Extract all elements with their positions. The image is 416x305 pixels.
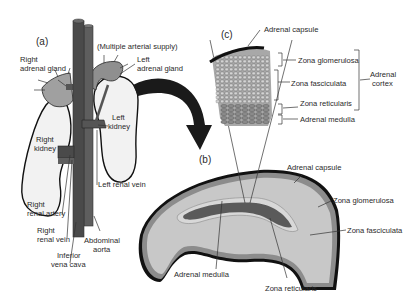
cortex-cell [243,60,246,63]
cortex-cell [221,80,224,83]
right-renal-vein-label-2: renal vein [37,235,70,244]
right-kidney-label-1: Right [36,135,55,144]
medulla-cell [221,112,227,115]
cortex-cell [216,60,219,63]
cortex-cell [239,76,242,79]
cortex-cell [266,96,269,99]
medulla-cell [249,104,255,107]
cortex-cell [248,64,251,67]
cortex-cell [221,84,224,87]
cortex-cell [248,92,251,95]
cortex-cell [243,84,246,87]
c-zona-reticularis-label: Zona reticularis [300,99,352,108]
medulla-cell [242,108,248,111]
cortex-cell [252,80,255,83]
cortex-cell [243,88,246,91]
right-renal-vein-label-1: Right [37,226,56,235]
adrenal-cortex-label-2: cortex [372,79,393,88]
cortex-cell [225,100,228,103]
medulla-cell [256,108,262,111]
cortex-cell [239,72,242,75]
cortex-cell [216,68,219,71]
medulla-cell [228,120,234,123]
cortex-cell [243,96,246,99]
cortex-cell [261,76,264,79]
cortex-cell [230,88,233,91]
medulla-cell [235,120,241,123]
c-zona-glomerulosa-label: Zona glomerulosa [298,56,360,65]
cortex-cell [234,56,237,59]
medulla-cell [228,104,234,107]
cortex-cell [243,100,246,103]
cortex-cell [216,84,219,87]
cortex-cell [257,80,260,83]
cortex-cell [239,92,242,95]
cortex-cell [234,96,237,99]
abdominal-aorta-label-1: Abdominal [84,236,120,245]
adrenal-gland-diagram: (a) (Multiple arterial supply) Right adr… [0,0,416,305]
cortex-cell [221,96,224,99]
medulla-cell [242,112,248,115]
cortex-cell [239,56,242,59]
multiple-arterial-supply-label: (Multiple arterial supply) [97,42,178,51]
left-adrenal-gland-label-1: Left [137,55,151,64]
medulla-cell [235,104,241,107]
cortex-cell [221,60,224,63]
cortex-cell [257,92,260,95]
panel-c-label: (c) [221,29,233,40]
cortex-cell [221,88,224,91]
cortex-cell [248,60,251,63]
zona-reticularis-label: Zona reticularis [265,284,317,293]
cortex-cell [257,72,260,75]
right-adrenal-gland-label-1: Right [20,55,39,64]
cortex-cell [261,72,264,75]
cortex-cell [230,76,233,79]
medulla-cell [263,104,269,107]
medulla-cell [256,104,262,107]
cortex-cell [261,68,264,71]
medulla-cell [256,116,262,119]
left-kidney-label-1: Left [112,113,126,122]
cortex-cell [266,92,269,95]
cortex-cell [266,64,269,67]
medulla-cell [235,116,241,119]
c-adrenal-capsule-label: Adrenal capsule [264,25,318,34]
inferior-vena-cava-label-2: vena cava [51,260,86,269]
medulla-cell [256,120,262,123]
adrenal-cortex-label-1: Adrenal [370,70,396,79]
panel-c: (c) Adrenal capsule Zona glomerulosa Zon… [210,25,396,126]
medulla-cell [221,108,227,111]
medulla-cell [235,112,241,115]
cortex-cell [257,100,260,103]
cortex-cell [234,100,237,103]
cortex-cell [216,64,219,67]
cortex-cell [266,72,269,75]
medulla-cell [249,112,255,115]
cortex-cell [261,96,264,99]
cortex-cell [230,64,233,67]
cortex-cell [234,64,237,67]
cortex-cell [239,64,242,67]
cortex-cell [234,72,237,75]
medulla-cell [263,116,269,119]
inferior-vena-cava-label-1: Inferior [57,251,81,260]
left-renal-vein-label: Left renal vein [98,180,146,189]
cortex-cell [225,60,228,63]
cortex-cell [230,84,233,87]
cortex-cell [261,64,264,67]
medulla-cell [221,116,227,119]
right-kidney-label-2: kidney [34,144,56,153]
cortex-cell [239,68,242,71]
cortex-cell [221,64,224,67]
medulla-cell [221,104,227,107]
cortex-cell [225,72,228,75]
cortex-cell [248,76,251,79]
cortex-cell [234,68,237,71]
cortex-cell [261,84,264,87]
medulla-cell [249,116,255,119]
zona-glomerulosa-label: Zona glomerulosa [333,196,395,205]
cortex-cell [221,92,224,95]
cortex-cell [216,76,219,79]
cortex-cell [239,84,242,87]
cortex-cell [257,68,260,71]
